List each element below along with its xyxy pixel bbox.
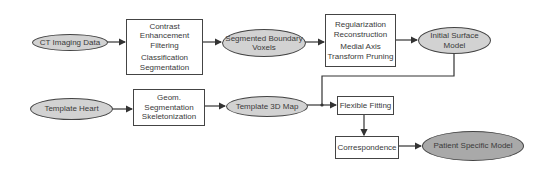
node-preprocessing: Contrast Enhancement Filtering Classific… (126, 19, 203, 75)
node-label-line: Skeletonization (142, 112, 196, 122)
node-ct-imaging-data: CT Imaging Data (32, 34, 108, 51)
node-label-line: Model (444, 41, 466, 51)
node-template-heart: Template Heart (30, 98, 113, 120)
node-geom-segmentation: Geom. Segmentation Skeletonization (133, 89, 205, 126)
node-label-line: Segmented Boundary (225, 34, 302, 44)
node-template-3d-map: Template 3D Map (226, 96, 308, 117)
node-label: Correspondence (337, 143, 396, 153)
node-label-line: Transform Pruning (328, 52, 394, 62)
node-initial-surface-model: Initial Surface Model (418, 27, 491, 54)
node-label-line: Filtering (150, 41, 178, 51)
node-label: Patient Specific Model (433, 141, 512, 151)
node-label: CT Imaging Data (40, 38, 100, 48)
node-label-line: Classification (141, 53, 188, 63)
node-patient-specific-model: Patient Specific Model (422, 131, 524, 161)
node-label-line: Regularization (335, 20, 386, 30)
node-label-line: Enhancement (140, 31, 189, 41)
node-segmented-boundary-voxels: Segmented Boundary Voxels (222, 29, 306, 57)
node-label: Flexible Fitting (340, 101, 392, 111)
node-label-line: Contrast (149, 22, 179, 32)
node-correspondence: Correspondence (335, 136, 399, 159)
node-flexible-fitting: Flexible Fitting (337, 96, 394, 115)
node-label: Template 3D Map (236, 102, 299, 112)
node-reconstruction: Regularization Reconstruction Medial Axi… (325, 14, 396, 67)
node-label: Template Heart (44, 104, 98, 114)
node-label-line: Segmentation (144, 103, 193, 113)
node-label-line: Segmentation (140, 63, 189, 73)
node-label-line: Initial Surface (430, 31, 478, 41)
node-label-line: Voxels (252, 43, 276, 53)
node-label-line: Reconstruction (334, 30, 387, 40)
node-label-line: Geom. (157, 93, 181, 103)
node-label-line: Medial Axis (340, 42, 380, 52)
